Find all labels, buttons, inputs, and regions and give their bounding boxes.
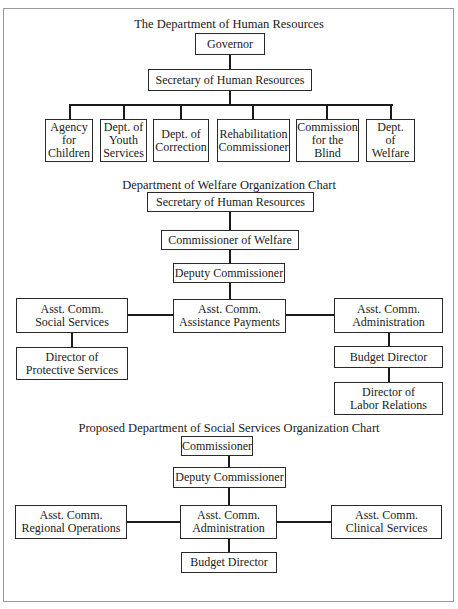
node-commissioner-of-welfare: Commissioner of Welfare	[161, 230, 299, 250]
node-asst-comm-administration: Asst. Comm. Administration	[180, 505, 277, 539]
connector	[390, 104, 392, 119]
node-deputy-commissioner: Deputy Commissioner	[173, 263, 285, 283]
node-asst-comm-social-services: Asst. Comm. Social Services	[16, 298, 128, 333]
node-agency-for-children: Agency for Children	[45, 119, 93, 162]
connector	[388, 368, 390, 382]
node-budget-director: Budget Director	[334, 346, 443, 368]
node-rehabilitation-commissioner: Rehabilitation Commissioner	[217, 119, 290, 162]
chart-title-social-services: Proposed Department of Social Services O…	[0, 421, 458, 435]
connector	[228, 456, 230, 467]
node-deputy-commissioner: Deputy Commissioner	[173, 467, 286, 488]
connector	[252, 104, 254, 119]
chart-title-welfare: Department of Welfare Organization Chart	[0, 178, 458, 192]
connector	[71, 333, 73, 347]
node-commissioner: Commissioner	[181, 436, 253, 456]
connector	[229, 283, 231, 299]
node-asst-comm-administration: Asst. Comm. Administration	[334, 298, 443, 333]
node-asst-comm-clinical-services: Asst. Comm. Clinical Services	[331, 505, 442, 539]
connector	[127, 521, 180, 523]
node-asst-comm-assistance-payments: Asst. Comm. Assistance Payments	[173, 299, 286, 333]
node-budget-director: Budget Director	[181, 552, 277, 573]
node-secretary-human-resources: Secretary of Human Resources	[147, 192, 314, 212]
node-asst-comm-regional-operations: Asst. Comm. Regional Operations	[15, 505, 127, 539]
connector	[229, 55, 231, 69]
connector	[228, 488, 230, 505]
connector	[388, 333, 390, 346]
connector	[229, 91, 231, 105]
connector	[128, 314, 173, 316]
node-director-labor-relations: Director of Labor Relations	[334, 382, 443, 415]
connector	[228, 539, 230, 552]
connector	[277, 521, 331, 523]
connector	[326, 104, 328, 119]
chart-title-human-resources: The Department of Human Resources	[0, 17, 458, 31]
connector	[286, 314, 334, 316]
node-secretary-human-resources: Secretary of Human Resources	[148, 69, 312, 91]
node-dept-youth-services: Dept. of Youth Services	[100, 119, 147, 162]
node-dept-correction: Dept. of Correction	[153, 119, 209, 162]
node-governor: Governor	[195, 33, 265, 55]
node-director-protective-services: Director of Protective Services	[16, 347, 128, 380]
connector	[229, 212, 231, 230]
node-dept-welfare: Dept. of Welfare	[366, 119, 415, 162]
connector	[123, 104, 125, 119]
node-commission-for-blind: Commission for the Blind	[296, 119, 359, 162]
connector	[69, 104, 71, 119]
connector	[229, 250, 231, 263]
connector	[69, 104, 393, 106]
connector	[180, 104, 182, 119]
